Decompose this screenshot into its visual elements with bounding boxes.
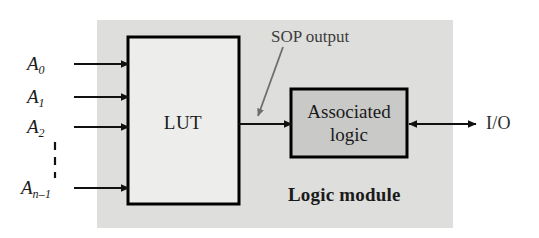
io-port-label: I/O [486,114,511,132]
input-label-a1: A1 [27,87,45,106]
input-label-a0: A0 [27,54,45,73]
logic-module-diagram: A0 A1 A2 An–1 LUT Associatedlogic SOP ou… [0,0,539,238]
input-label-an-minus-1: An–1 [21,178,51,197]
associated-logic-label-line1: Associated [307,101,390,122]
input-label-a2: A2 [27,117,45,136]
associated-logic-block-label: Associatedlogic [294,100,404,146]
associated-logic-label-line2: logic [330,124,368,145]
logic-module-label: Logic module [288,185,401,204]
lut-block-label: LUT [147,113,219,132]
diagram-canvas [0,0,539,238]
sop-output-annotation-label: SOP output [271,28,349,45]
